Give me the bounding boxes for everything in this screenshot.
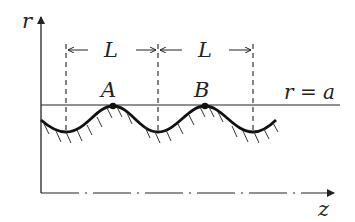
reference-line-label: r = a	[284, 80, 335, 104]
reference-line: r = a	[41, 80, 340, 105]
point-b-label: B	[193, 78, 209, 102]
z-axis-label: z	[317, 197, 330, 221]
wavy-wall	[41, 106, 278, 143]
r-axis: r	[22, 9, 41, 193]
spacing-dimension-1: L	[68, 38, 156, 62]
spacing-label-1: L	[103, 38, 118, 62]
wavy-wall-diagram: r z r = a L L	[0, 0, 355, 222]
z-axis: z	[41, 193, 334, 221]
wall-hatching	[44, 107, 278, 143]
spacing-dimension-2: L	[160, 38, 251, 62]
point-a-label: A	[99, 78, 116, 102]
spacing-label-2: L	[197, 38, 212, 62]
r-axis-label: r	[22, 9, 34, 33]
